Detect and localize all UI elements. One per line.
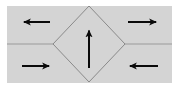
flow-field-diagram <box>0 0 179 89</box>
figure-container <box>0 0 179 89</box>
